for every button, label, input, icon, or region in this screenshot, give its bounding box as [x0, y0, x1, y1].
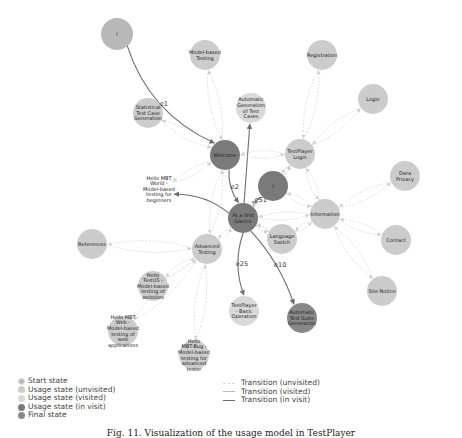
edge-welcome-to-hello-mbt-world: [172, 162, 210, 182]
edge-advanced-testing-to-references: [107, 245, 191, 253]
edge-welcome-to-statistical: [162, 121, 212, 148]
node-hello-mbt-world[interactable]: Hello MBTWorld -Model-basedtesting forbe…: [143, 174, 175, 204]
edge-information-to-first-glance: [259, 212, 310, 217]
node-label: beginners: [147, 197, 172, 204]
node-label: Cases: [244, 113, 259, 119]
node-inner-i[interactable]: I: [258, 171, 288, 201]
node-model-based-testing[interactable]: Model-basedTesting: [189, 40, 221, 70]
node-information[interactable]: Information: [310, 199, 340, 229]
node-testplayer-login[interactable]: TestPlayerLogin: [285, 139, 315, 169]
legend-line: [223, 400, 235, 401]
node-site-notice[interactable]: Site Notice: [367, 276, 397, 306]
node-start[interactable]: I: [101, 18, 133, 50]
edge-testplayer-login-to-information: [306, 168, 319, 199]
node-label: Information: [311, 211, 340, 217]
node-hello-testus[interactable]: HelloTestUS -Model-basedtesting ofwebsit…: [137, 271, 169, 301]
node-data-privacy[interactable]: DataPrivacy: [390, 161, 420, 191]
edge-advanced-testing-to-hello-testus: [166, 257, 194, 276]
node-label: Login: [293, 154, 307, 161]
edge-information-to-first-glance: [258, 215, 309, 220]
node-label: I: [272, 183, 273, 189]
edge-label: e2: [231, 183, 239, 191]
edge-advanced-testing-to-hello-mbt-bug: [194, 264, 205, 339]
node-label: Contact: [386, 237, 405, 243]
legend-item-transition-in_visit: Transition (in visit): [223, 396, 320, 405]
edge-information-to-site-notice: [335, 227, 374, 279]
node-contact[interactable]: Contact: [381, 225, 411, 255]
legend-line: [223, 383, 235, 384]
edge-inner-i-to-information: [286, 193, 311, 206]
legend-label: Transition (in visit): [241, 396, 310, 405]
edge-information-to-language-switch: [296, 222, 312, 231]
legend-item-final: Final state: [18, 411, 115, 420]
edge-welcome-to-hello-mbt-world: [173, 162, 211, 182]
edge-testplayer-login-to-login: [313, 108, 361, 144]
node-welcome[interactable]: Welcome: [210, 140, 240, 170]
figure-caption: Fig. 11. Visualization of the usage mode…: [0, 428, 462, 438]
edge-advanced-testing-to-hello-testus: [165, 258, 193, 277]
legend-label: Final state: [28, 411, 67, 420]
edge-advanced-testing-to-hello-mbt-bug: [196, 265, 207, 340]
node-label: Registration: [307, 52, 337, 59]
legend-swatch: [18, 395, 25, 402]
node-hello-mbt-web[interactable]: Hello MBTWeb -Model-basedtesting ofwebap…: [107, 314, 139, 349]
node-advanced-testing[interactable]: AdvancedTesting: [192, 234, 222, 264]
node-testplayer-basic[interactable]: TestPlayer- BasicOperation: [229, 296, 259, 326]
edge-first-glance-to-auto-gen: [244, 124, 250, 203]
node-auto-suite[interactable]: AutomaticTest SuiteGeneration: [287, 303, 317, 333]
node-label: Privacy: [396, 176, 414, 183]
node-language-switch[interactable]: LanguageSwitch: [267, 224, 297, 254]
edge-label: e10: [274, 261, 286, 269]
node-label: websites: [142, 294, 164, 300]
legend-swatch: [18, 412, 25, 419]
node-registration[interactable]: Registration: [307, 40, 337, 70]
edge-information-to-site-notice: [334, 226, 373, 278]
edge-information-to-data-privacy: [339, 183, 391, 208]
edge-information-to-language-switch: [295, 222, 311, 231]
node-label: Glance: [234, 218, 251, 224]
edge-label: e25: [236, 260, 248, 268]
transition-legend: Transition (unvisited)Transition (visite…: [223, 379, 320, 405]
edge-inner-i-to-information: [287, 194, 312, 207]
legend-swatch: [18, 378, 25, 385]
node-label: I: [116, 31, 117, 37]
node-first-glance[interactable]: At a firstGlance: [228, 203, 258, 233]
node-label: Switch: [274, 239, 291, 245]
edge-advanced-testing-to-references: [108, 241, 192, 249]
state-legend: Start stateUsage state (unvisited)Usage …: [18, 377, 115, 420]
edge-testplayer-login-to-registration: [303, 70, 319, 139]
node-label: Site Notice: [368, 288, 395, 294]
node-label: tester: [187, 366, 203, 372]
node-statistical[interactable]: StatisticalTest CaseGeneration: [133, 98, 163, 128]
node-label: Testing: [197, 249, 216, 256]
node-label: Generation: [288, 320, 316, 326]
node-references[interactable]: References: [77, 229, 107, 259]
node-label: applications: [108, 342, 139, 349]
edge-welcome-to-statistical: [161, 120, 211, 147]
node-label: Testing: [195, 55, 214, 62]
node-label: Generation: [134, 115, 162, 121]
edge-testplayer-login-to-login: [312, 109, 360, 145]
node-label: Login: [366, 96, 380, 103]
edge-advanced-testing-to-first-glance: [219, 228, 232, 239]
edge-information-to-contact: [339, 219, 381, 234]
edge-testplayer-login-to-information: [306, 169, 319, 200]
node-label: References: [78, 241, 106, 247]
edge-information-to-contact: [340, 220, 382, 235]
edge-welcome-to-testplayer-login: [240, 154, 284, 158]
node-hello-mbt-bug[interactable]: HelloMBT-Bug -Model-basedtesting foradva…: [178, 338, 210, 372]
edge-information-to-data-privacy: [339, 182, 391, 207]
nodes-layer: IModel-basedTestingRegistrationLoginStat…: [77, 18, 420, 372]
node-auto-gen[interactable]: AutomaticGenerationof TestCases: [236, 93, 266, 123]
node-label: Welcome: [214, 152, 237, 158]
legend-swatch: [18, 404, 25, 411]
node-login[interactable]: Login: [358, 84, 388, 114]
edge-advanced-testing-to-first-glance: [218, 228, 231, 239]
legend-line: [223, 391, 235, 392]
legend-swatch: [18, 386, 25, 393]
node-label: Operation: [232, 313, 257, 320]
edge-testplayer-login-to-registration: [303, 71, 319, 140]
